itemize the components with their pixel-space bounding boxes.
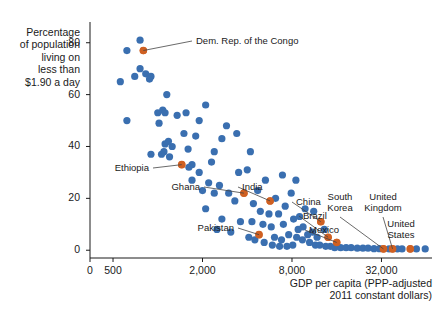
- country-label: Ethiopia: [0, 162, 149, 173]
- x-axis-title: GDP per capita (PPP-adjusted 2011 consta…: [236, 277, 432, 302]
- data-point: [276, 243, 283, 250]
- data-point: [185, 145, 192, 152]
- data-point: [271, 234, 278, 241]
- data-point: [158, 151, 165, 158]
- data-point: [233, 130, 240, 137]
- data-point: [123, 47, 130, 54]
- data-point: [231, 197, 238, 204]
- highlighted-country-point: [389, 245, 397, 253]
- data-point: [155, 120, 162, 127]
- data-point: [163, 91, 170, 98]
- data-point: [166, 153, 173, 160]
- data-point: [136, 37, 143, 44]
- data-point: [278, 236, 285, 243]
- country-label: Pakistan: [0, 222, 234, 233]
- country-label: India: [242, 181, 263, 192]
- data-point: [147, 151, 154, 158]
- data-point: [123, 117, 130, 124]
- data-point: [261, 239, 268, 246]
- data-point: [161, 109, 168, 116]
- data-point: [285, 231, 292, 238]
- data-point: [316, 241, 323, 248]
- country-label: Ghana: [0, 181, 200, 192]
- country-label: Mexico: [309, 224, 339, 235]
- data-point: [259, 221, 266, 228]
- highlighted-country-point: [333, 239, 341, 247]
- data-point: [275, 210, 282, 217]
- y-tick-label: 0: [58, 243, 80, 255]
- x-tick-label: 8,000: [265, 264, 319, 276]
- leader-line: [238, 228, 259, 235]
- data-point: [282, 203, 289, 210]
- label-leader-lines: [143, 41, 392, 249]
- y-tick-label: 60: [58, 88, 80, 100]
- leader-line: [143, 41, 192, 51]
- data-point: [216, 182, 223, 189]
- data-point: [257, 208, 264, 215]
- data-point: [174, 112, 181, 119]
- data-point: [165, 138, 172, 145]
- data-point: [235, 169, 242, 176]
- data-point: [202, 205, 209, 212]
- data-point: [147, 73, 154, 80]
- data-point: [136, 65, 143, 72]
- data-point: [244, 166, 251, 173]
- data-point: [269, 241, 276, 248]
- data-point: [295, 226, 302, 233]
- scatter-chart-figure: Percentage of population living on less …: [0, 0, 434, 315]
- country-label: United Kingdom: [343, 191, 423, 213]
- data-point: [182, 109, 189, 116]
- data-point: [117, 78, 124, 85]
- data-point: [299, 236, 306, 243]
- data-point: [131, 73, 138, 80]
- data-point: [192, 133, 199, 140]
- y-tick-label: 40: [58, 139, 80, 151]
- leader-line: [153, 165, 182, 168]
- data-point: [205, 179, 212, 186]
- country-label: United States: [361, 218, 434, 240]
- data-point: [279, 171, 286, 178]
- data-point: [185, 164, 192, 171]
- data-point: [208, 158, 215, 165]
- data-point: [292, 177, 299, 184]
- data-point: [211, 190, 218, 197]
- data-point: [288, 190, 295, 197]
- data-point: [247, 148, 254, 155]
- highlighted-country-point: [406, 245, 414, 253]
- data-point: [237, 218, 244, 225]
- data-point: [422, 245, 429, 252]
- x-tick-label: 32,000: [354, 264, 408, 276]
- leader-line: [204, 187, 244, 193]
- data-point: [196, 169, 203, 176]
- data-point: [265, 210, 272, 217]
- data-point: [218, 135, 225, 142]
- data-point: [268, 223, 275, 230]
- data-point: [250, 200, 257, 207]
- y-tick-label: 80: [58, 36, 80, 48]
- highlighted-country-point: [380, 245, 388, 253]
- data-point: [223, 122, 230, 129]
- x-tick-label: 500: [86, 264, 140, 276]
- data-point: [211, 148, 218, 155]
- x-tick-label: 2,000: [176, 264, 230, 276]
- data-point: [180, 130, 187, 137]
- data-point: [196, 117, 203, 124]
- data-point: [398, 245, 405, 252]
- y-tick-label: 20: [58, 191, 80, 203]
- country-label: Dem. Rep. of the Congo: [196, 35, 298, 46]
- data-point: [348, 244, 355, 251]
- data-point: [248, 218, 255, 225]
- data-point: [202, 101, 209, 108]
- data-point: [280, 221, 287, 228]
- data-point: [289, 241, 296, 248]
